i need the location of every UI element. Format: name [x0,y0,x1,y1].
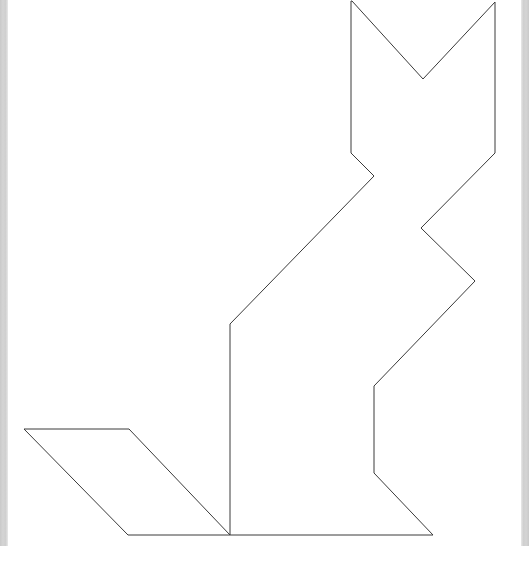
cat-tail-parallelogram [24,429,230,535]
tangram-cat-figure [0,0,529,563]
drawing-canvas [0,0,529,563]
cat-body-outline [230,1,495,535]
